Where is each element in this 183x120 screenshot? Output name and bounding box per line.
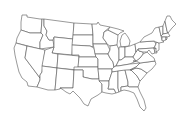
state-north-dakota (73, 23, 93, 35)
state-connecticut (162, 37, 166, 41)
state-wyoming (52, 37, 73, 55)
us-map-svg (0, 0, 183, 120)
state-maine (165, 16, 176, 33)
state-kansas (78, 57, 98, 67)
us-outline-map: United States outline map (0, 0, 183, 120)
state-florida (121, 86, 146, 111)
state-washington (21, 15, 42, 33)
state-new-mexico (55, 68, 74, 90)
state-rhode-island (166, 37, 167, 40)
state-montana (44, 19, 74, 40)
state-iowa (93, 44, 110, 54)
